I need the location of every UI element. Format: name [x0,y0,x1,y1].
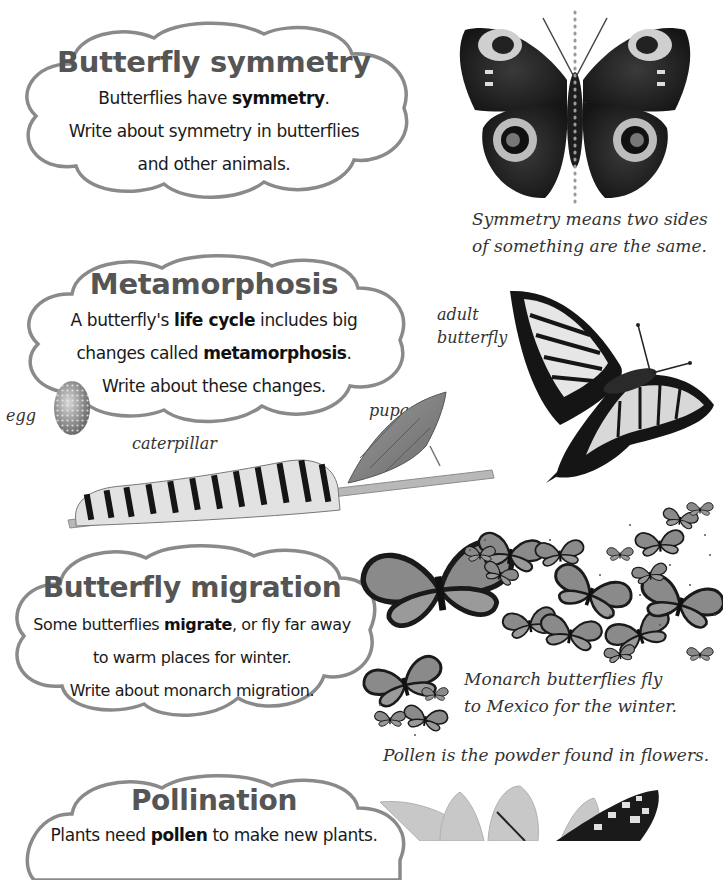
body-line: Write about symmetry in butterflies [14,115,414,148]
section-title: Butterfly migration [6,568,378,608]
key-term: pollen [151,825,208,845]
body-line: Some butterflies migrate, or fly far awa… [6,608,378,641]
body-line: Write about monarch migration. [6,674,378,707]
body-line: and other animals. [14,148,414,181]
peacock-butterfly-icon [455,10,695,205]
flower-butterfly-icon [380,778,723,841]
key-term: migrate [164,615,232,634]
body-line: Plants need pollen to make new plants. [14,820,414,850]
body-line: Butterflies have symmetry. [14,82,414,115]
key-term: metamorphosis [203,343,346,363]
migration-caption: Monarch butterflies fly to Mexico for th… [464,666,714,720]
section-title: Metamorphosis [14,264,414,304]
body-line: A butterfly's life cycle includes big [14,304,414,337]
symmetry-caption: Symmetry means two sides of something ar… [472,206,712,260]
pupa-icon [340,388,450,488]
section-title: Butterfly symmetry [14,42,414,82]
key-term: symmetry [232,88,325,108]
pollination-cloud: Pollination Plants need pollen to make n… [14,770,414,880]
migration-cloud: Butterfly migration Some butterflies mig… [6,540,378,725]
symmetry-cloud: Butterfly symmetry Butterflies have symm… [14,16,414,202]
body-line: changes called metamorphosis. [14,337,414,370]
body-line: to warm places for winter. [6,641,378,674]
swallowtail-butterfly-icon [490,285,720,485]
egg-icon [50,378,94,438]
pollination-caption: Pollen is the powder found in flowers. [383,742,723,769]
egg-label: egg [6,404,36,427]
section-title: Pollination [14,782,414,820]
key-term: life cycle [174,310,255,330]
